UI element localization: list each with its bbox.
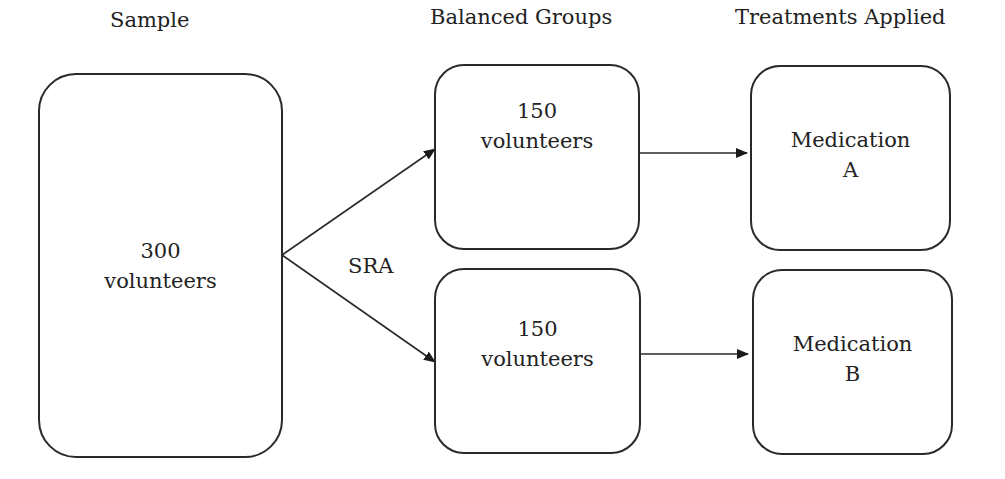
medication-b-node: Medication B (752, 269, 953, 455)
medication-b-letter: B (845, 359, 860, 389)
medication-b-name: Medication (793, 329, 913, 359)
medication-a-name: Medication (791, 125, 911, 155)
group-a-count: 150 (517, 96, 557, 126)
group-a-node: 150 volunteers (434, 64, 640, 250)
header-sample: Sample (110, 8, 189, 32)
group-b-node: 150 volunteers (434, 268, 641, 454)
group-b-unit: volunteers (481, 344, 593, 374)
group-a-unit: volunteers (481, 126, 593, 156)
sample-count: 300 (140, 236, 180, 266)
sample-unit: volunteers (104, 266, 216, 296)
header-balanced-groups: Balanced Groups (430, 5, 612, 29)
group-b-count: 150 (517, 314, 557, 344)
medication-a-node: Medication A (750, 65, 951, 251)
sample-node: 300 volunteers (38, 73, 283, 458)
sra-label: SRA (348, 254, 393, 278)
header-treatments-applied: Treatments Applied (735, 5, 946, 29)
medication-a-letter: A (843, 155, 858, 185)
arrow-sample-to-group-a (282, 149, 435, 255)
